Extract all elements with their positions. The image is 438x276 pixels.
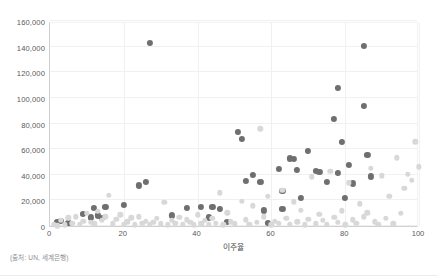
scatter-point <box>239 198 244 203</box>
scatter-point <box>261 207 267 213</box>
scatter-point <box>379 173 384 178</box>
scatter-point <box>239 136 245 142</box>
x-axis-tick-label: 80 <box>340 229 348 238</box>
gridline-vertical <box>124 23 125 226</box>
scatter-point <box>306 216 311 221</box>
scatter-point <box>217 190 222 195</box>
scatter-point <box>276 166 282 172</box>
scatter-point <box>132 222 137 227</box>
scatter-point <box>257 179 263 185</box>
scatter-point <box>128 215 133 220</box>
scatter-point <box>416 164 421 169</box>
scatter-point <box>191 222 196 227</box>
scatter-point <box>331 116 337 122</box>
scatter-point <box>290 156 296 162</box>
y-axis-tick-label: 40,000 <box>1 171 45 180</box>
scatter-point <box>217 206 223 212</box>
scatter-point <box>298 195 304 201</box>
scatter-point <box>365 210 370 215</box>
scatter-point <box>335 170 341 176</box>
x-axis-tick-label: 100 <box>412 229 425 238</box>
y-axis-ticks: 020,00040,00060,00080,000100,000120,0001… <box>0 22 45 227</box>
scatter-point <box>383 216 388 221</box>
scatter-point <box>335 85 341 91</box>
x-axis-tick-label: 60 <box>266 229 274 238</box>
y-axis-tick-label: 140,000 <box>1 43 45 52</box>
scatter-point <box>291 199 296 204</box>
scatter-point <box>136 214 141 219</box>
scatter-chart-figure: 020,00040,00060,00080,000100,000120,0001… <box>0 0 438 276</box>
gridline-vertical <box>198 23 199 226</box>
gridline-horizontal <box>50 20 417 21</box>
y-axis-tick-label: 100,000 <box>1 94 45 103</box>
scatter-point <box>55 223 60 228</box>
scatter-point <box>209 204 215 210</box>
x-axis-tick-label: 0 <box>47 229 51 238</box>
scatter-point <box>402 186 407 191</box>
scatter-point <box>361 103 367 109</box>
gridline-horizontal <box>50 148 417 149</box>
gridline-vertical <box>419 23 420 226</box>
scatter-point <box>338 139 344 145</box>
scatter-point <box>198 204 204 210</box>
scatter-point <box>176 214 181 219</box>
x-axis-tick-label: 40 <box>192 229 200 238</box>
scatter-point <box>81 218 86 223</box>
x-axis-title: 이주율 <box>49 241 418 252</box>
scatter-point <box>287 222 292 227</box>
scatter-point <box>309 174 314 179</box>
scatter-point <box>305 148 311 154</box>
scatter-point <box>376 222 381 227</box>
scatter-point <box>121 202 127 208</box>
scatter-point <box>183 205 189 211</box>
scatter-point <box>324 179 330 185</box>
scatter-point <box>413 139 418 144</box>
scatter-point <box>117 212 122 217</box>
scatter-point <box>261 214 266 219</box>
scatter-point <box>317 211 322 216</box>
scatter-point <box>73 214 78 219</box>
y-axis-tick-label: 20,000 <box>1 197 45 206</box>
scatter-point <box>247 222 252 227</box>
scatter-point <box>364 152 370 158</box>
scatter-point <box>224 210 229 215</box>
scatter-point <box>283 216 288 221</box>
y-axis-tick-label: 160,000 <box>1 18 45 27</box>
scatter-point <box>368 166 373 171</box>
scatter-point <box>242 178 248 184</box>
scatter-point <box>294 167 300 173</box>
gridline-horizontal <box>50 199 417 200</box>
gridline-horizontal <box>50 71 417 72</box>
gridline-vertical <box>271 23 272 226</box>
scatter-point <box>250 172 256 178</box>
scatter-point <box>324 222 329 227</box>
scatter-point <box>206 222 211 227</box>
scatter-point <box>250 203 255 208</box>
scatter-point <box>62 222 67 227</box>
scatter-point <box>342 222 347 227</box>
scatter-point <box>135 182 141 188</box>
scatter-point <box>195 212 200 217</box>
scatter-point <box>368 173 374 179</box>
scatter-point <box>302 222 307 227</box>
scatter-point <box>339 208 344 213</box>
x-axis-tick-label: 20 <box>119 229 127 238</box>
scatter-point <box>106 193 111 198</box>
scatter-point <box>162 200 167 205</box>
scatter-point <box>258 126 263 131</box>
plot-area <box>49 22 418 227</box>
gridline-horizontal <box>50 174 417 175</box>
source-note: (출처: UN, 세계은행) <box>10 252 69 262</box>
y-axis-tick-label: 0 <box>1 223 45 232</box>
y-axis-tick-label: 80,000 <box>1 120 45 129</box>
scatter-point <box>398 211 403 216</box>
scatter-point <box>394 155 399 160</box>
scatter-point <box>235 129 241 135</box>
scatter-point <box>298 207 303 212</box>
y-axis-tick-label: 120,000 <box>1 69 45 78</box>
gridline-horizontal <box>50 97 417 98</box>
scatter-point <box>103 214 108 219</box>
scatter-point <box>114 216 119 221</box>
scatter-point <box>357 201 362 206</box>
scatter-point <box>165 222 170 227</box>
